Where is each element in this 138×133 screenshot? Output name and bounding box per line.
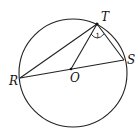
segment-rt	[20, 24, 97, 78]
segment-to	[71, 24, 97, 69]
label-s: S	[127, 53, 135, 67]
label-r: R	[8, 74, 18, 88]
angle-label-1: 1	[96, 32, 100, 40]
segment-ts	[97, 24, 124, 60]
label-t: T	[101, 10, 110, 24]
geometry-diagram: 1 T S R O	[0, 0, 138, 133]
point-t	[95, 22, 98, 25]
label-o: O	[70, 71, 80, 85]
point-o	[70, 68, 73, 71]
